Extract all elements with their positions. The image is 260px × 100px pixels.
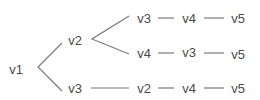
node-r2c1: v4 <box>137 47 151 60</box>
tree-edges <box>0 0 260 100</box>
node-r3c1: v2 <box>137 82 151 95</box>
node-r3c2: v4 <box>182 82 196 95</box>
node-v1: v1 <box>9 63 23 76</box>
node-r2c2: v3 <box>182 46 196 59</box>
edge-v2-v3-v4 <box>92 16 129 54</box>
node-r1c3: v5 <box>231 12 245 25</box>
node-r1c1: v3 <box>137 12 151 25</box>
node-r1c2: v4 <box>182 12 196 25</box>
node-r3c3: v5 <box>231 82 245 95</box>
edge-v1-v2-v3 <box>38 43 62 91</box>
node-v3: v3 <box>68 82 82 95</box>
node-v2: v2 <box>68 34 82 47</box>
node-r2c3: v5 <box>231 48 245 61</box>
